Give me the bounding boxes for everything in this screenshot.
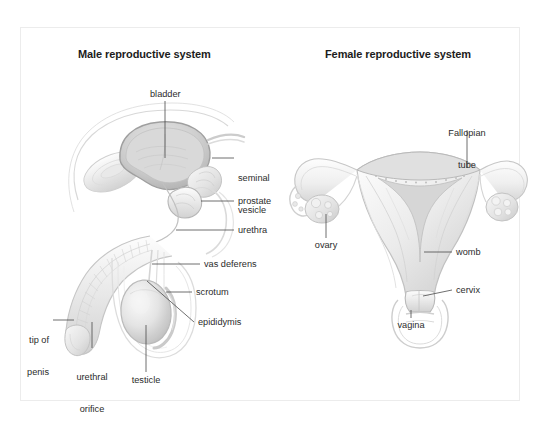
label-vagina: vagina — [386, 320, 436, 331]
label-tip-of-penis: tip of penis — [5, 314, 49, 398]
label-bladder: bladder — [150, 89, 181, 100]
male-system-title: Male reproductive system — [78, 48, 211, 60]
label-fallopian-tube-line1: Fallopian — [437, 128, 497, 139]
female-system-title: Female reproductive system — [325, 48, 471, 60]
label-ovary: ovary — [303, 240, 349, 251]
label-cervix: cervix — [456, 285, 480, 296]
label-fallopian-tube-line2: tube — [437, 160, 497, 171]
label-urethral-orifice-line2: orifice — [62, 404, 122, 415]
label-fallopian-tube: Fallopian tube — [437, 107, 497, 191]
label-tip-of-penis-line2: penis — [5, 367, 49, 378]
label-seminal-vesicle: seminal vesicle — [238, 152, 270, 236]
anatomy-figure: Male reproductive system Female reproduc… — [0, 0, 545, 423]
label-testicle: testicle — [120, 375, 172, 386]
label-urethra: urethra — [238, 225, 267, 236]
label-vas-deferens: vas deferens — [204, 259, 257, 270]
label-epididymis: epididymis — [198, 317, 241, 328]
figure-frame — [20, 27, 520, 401]
label-prostate: prostate — [238, 196, 271, 207]
label-urethral-orifice: urethral orifice — [62, 351, 122, 423]
label-tip-of-penis-line1: tip of — [5, 335, 49, 346]
label-scrotum: scrotum — [196, 287, 229, 298]
label-urethral-orifice-line1: urethral — [62, 372, 122, 383]
label-womb: womb — [456, 247, 481, 258]
label-seminal-vesicle-line1: seminal — [238, 173, 270, 184]
